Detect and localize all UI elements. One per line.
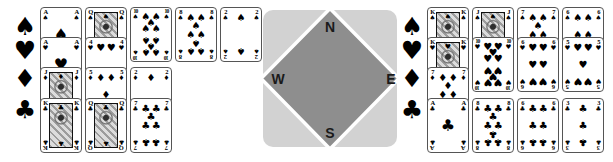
pip-area: ♣♣♣♣♣♣ [527, 105, 549, 146]
card-corner-index: 10♥ [504, 39, 513, 50]
heart-symbol-icon: ♥ [397, 37, 427, 65]
card-corner-index: A♠ [72, 9, 81, 21]
compass-label-west: W [271, 71, 285, 87]
spade-pip: ♠ [237, 46, 246, 56]
card-corner-index: 6♥ [549, 39, 558, 51]
card-corner-index: 7♠ [549, 9, 558, 21]
card-corner-index: 10♥ [504, 79, 513, 90]
spade-pip: ♠ [573, 13, 582, 23]
card-A-club[interactable]: A♣A♣A♣A♣♣ [427, 98, 469, 153]
card-corner-index: Q♠ [117, 9, 126, 21]
heart-pip: ♥ [96, 43, 105, 53]
card-corner-index: 8♠ [176, 48, 185, 60]
card-corner-index: Q♣ [117, 139, 126, 151]
card-corner-index: 3♣ [594, 100, 603, 112]
club-pip: ♣ [539, 121, 548, 131]
card-corner-index: A♣ [428, 100, 437, 112]
card-10-heart[interactable]: 10♥10♥10♥10♥♥♥♥♥♥♥♥♥♥♥ [472, 37, 514, 92]
card-corner-index: 10♠ [162, 9, 171, 20]
card-5-heart[interactable]: 5♥5♥5♥5♥♥♥♥♥♥ [562, 37, 604, 92]
heart-pip: ♥ [584, 76, 593, 86]
card-K-club[interactable]: K♣K♣K♣K♣♣♣ [40, 98, 82, 153]
card-corner-index: 4♥ [117, 39, 126, 51]
card-corner-index: 5♥ [563, 39, 572, 51]
pip-area: ♥♥♥♥♥♥ [527, 44, 549, 85]
card-10-spade[interactable]: 10♠10♠10♠10♠♠♠♠♠♠♠♠♠♠♠ [130, 7, 172, 62]
card-corner-index: 2♠ [252, 48, 261, 60]
heart-pip: ♥ [573, 43, 582, 53]
card-6-club[interactable]: 6♣6♣6♣6♣♣♣♣♣♣♣ [517, 98, 559, 153]
club-pip: ♣ [152, 137, 161, 147]
diamond-symbol-icon: ♦ [397, 65, 427, 93]
heart-pip: ♥ [528, 43, 537, 53]
pip-area: ♠♠♠♠♠♠♠♠ [185, 14, 207, 55]
pip-area: ♠♠ [230, 14, 252, 55]
pip-area: ♣♣♣♣♣♣♣♣ [482, 105, 504, 146]
club-pip: ♣ [528, 137, 537, 147]
heart-pip: ♥ [494, 54, 503, 64]
card-corner-index: 2♠ [221, 48, 230, 60]
card-corner-index: Q♣ [117, 100, 126, 112]
card-corner-index: 10♠ [131, 9, 140, 20]
card-corner-index: 6♠ [563, 9, 572, 21]
card-corner-index: 6♥ [518, 78, 527, 90]
card-2-spade[interactable]: 2♠2♠2♠2♠♠♠ [220, 7, 262, 62]
pip-area: ♣♣♣♣♣♣♣ [140, 105, 162, 146]
card-corner-index: K♣ [72, 139, 81, 151]
card-corner-index: 5♥ [594, 39, 603, 51]
pip-area: ♥♥♥♥♥♥♥♥♥♥ [482, 44, 504, 85]
card-corner-index: 7♣ [162, 100, 171, 112]
card-Q-club[interactable]: Q♣Q♣Q♣Q♣♣♣ [85, 98, 127, 153]
card-corner-index: 7♣ [162, 139, 171, 151]
club-pip: ♣ [141, 121, 150, 131]
card-corner-index: A♥ [41, 39, 50, 51]
club-pip: ♣ [528, 104, 537, 114]
card-corner-index: 6♣ [518, 100, 527, 112]
pip-area: ♥♥♥♥♥ [572, 44, 594, 85]
card-corner-index: 6♣ [518, 139, 527, 151]
club-pip: ♣ [483, 137, 492, 147]
card-6-heart[interactable]: 6♥6♥6♥6♥♥♥♥♥♥♥ [517, 37, 559, 92]
card-corner-index: 8♠ [207, 48, 216, 60]
heart-pip: ♥ [483, 77, 492, 87]
card-corner-index: K♥ [459, 39, 468, 51]
card-corner-index: 8♠ [207, 9, 216, 21]
court-card-art: ♣♣ [49, 103, 73, 148]
pip-area: ♣♣♣ [572, 105, 594, 146]
card-8-spade[interactable]: 8♠8♠8♠8♠♠♠♠♠♠♠♠♠ [175, 7, 217, 62]
card-corner-index: 8♣ [473, 139, 482, 151]
spade-pip: ♠ [237, 13, 246, 23]
card-corner-index: 8♣ [504, 100, 513, 112]
bridge-deal-diagram: ♠A♠A♠A♠A♠♠Q♠Q♠Q♠Q♠♠♠10♠10♠10♠10♠♠♠♠♠♠♠♠♠… [0, 0, 613, 162]
card-corner-index: 5♦ [117, 69, 126, 81]
card-corner-index: A♣ [428, 139, 437, 151]
card-3-club[interactable]: 3♣3♣3♣3♣♣♣♣ [562, 98, 604, 153]
heart-pip: ♥ [579, 60, 588, 70]
club-pip: ♣ [152, 121, 161, 131]
card-7-club[interactable]: 7♣7♣7♣7♣♣♣♣♣♣♣♣ [130, 98, 172, 153]
spade-pip: ♠ [584, 13, 593, 23]
court-card-art: ♣♣ [94, 103, 118, 148]
card-corner-index: J♦ [72, 69, 81, 81]
heart-pip: ♥ [528, 60, 537, 70]
card-corner-index: 3♣ [563, 100, 572, 112]
club-pip: ♣ [528, 121, 537, 131]
club-pip: ♣ [579, 137, 588, 147]
card-corner-index: 4♥ [86, 39, 95, 51]
heart-pip: ♥ [107, 43, 116, 53]
club-pip: ♣ [539, 104, 548, 114]
card-corner-index: 6♠ [594, 9, 603, 21]
compass-label-north: N [325, 19, 335, 35]
card-corner-index: 3♣ [563, 139, 572, 151]
club-pip: ♣ [579, 104, 588, 114]
card-8-club[interactable]: 8♣8♣8♣8♣♣♣♣♣♣♣♣♣ [472, 98, 514, 153]
card-corner-index: 10♥ [473, 39, 482, 50]
spade-pip: ♠ [141, 47, 150, 57]
diamond-pip: ♦ [147, 73, 156, 83]
card-corner-index: 2♠ [221, 9, 230, 21]
card-corner-index: 7♦ [459, 69, 468, 81]
card-corner-index: 6♣ [549, 100, 558, 112]
spade-pip: ♠ [141, 24, 150, 34]
heart-pip: ♥ [539, 60, 548, 70]
card-corner-index: 8♣ [504, 139, 513, 151]
